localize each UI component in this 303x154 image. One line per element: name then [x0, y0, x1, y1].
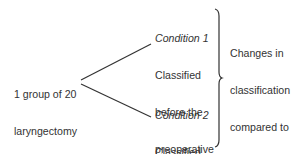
condition-2-line-1: Classified [155, 146, 214, 154]
condition-1-line-1: Classified [155, 69, 214, 81]
group-line-1: 1 group of 20 [14, 88, 77, 100]
condition-2-title: Condition 2 [155, 109, 214, 121]
condition-2-block: Condition 2 Classified after the preoper… [155, 84, 214, 154]
outcome-line-2: classification [230, 84, 295, 96]
group-line-2: laryngectomy [14, 125, 77, 137]
curly-brace-icon [215, 9, 222, 147]
branch-line-condition-2 [81, 84, 151, 117]
group-label: 1 group of 20 laryngectomy patients [14, 63, 77, 154]
outcome-line-1: Changes in [230, 47, 295, 59]
outcome-line-3: compared to [230, 121, 295, 133]
condition-1-title: Condition 1 [155, 32, 214, 44]
branch-line-condition-1 [81, 44, 151, 80]
outcome-block: Changes in classification compared to se… [230, 22, 295, 154]
